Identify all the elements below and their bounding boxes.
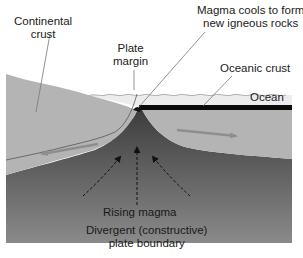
label-plate-margin-line1: Plate <box>113 42 148 55</box>
label-magma-cools-line1: Magma cools to form <box>197 4 303 17</box>
label-continental-crust-line2: crust <box>14 28 72 41</box>
oceanic-crust-band <box>139 105 292 110</box>
label-rising-magma: Rising magma <box>103 206 177 219</box>
label-plate-margin-line2: margin <box>113 55 148 68</box>
diagram-caption-line1: Divergent (constructive) <box>86 224 207 237</box>
label-magma-cools: Magma cools to form new igneous rocks <box>197 4 303 30</box>
diagram-caption: Divergent (constructive) plate boundary <box>86 224 207 250</box>
label-oceanic-crust: Oceanic crust <box>220 62 290 75</box>
label-continental-crust-line1: Continental <box>14 15 72 28</box>
diagram-caption-line2: plate boundary <box>86 237 207 250</box>
label-ocean: Ocean <box>250 91 284 104</box>
label-plate-margin: Plate margin <box>113 42 148 68</box>
label-continental-crust: Continental crust <box>14 15 72 41</box>
label-magma-cools-line2: new igneous rocks <box>197 17 303 30</box>
